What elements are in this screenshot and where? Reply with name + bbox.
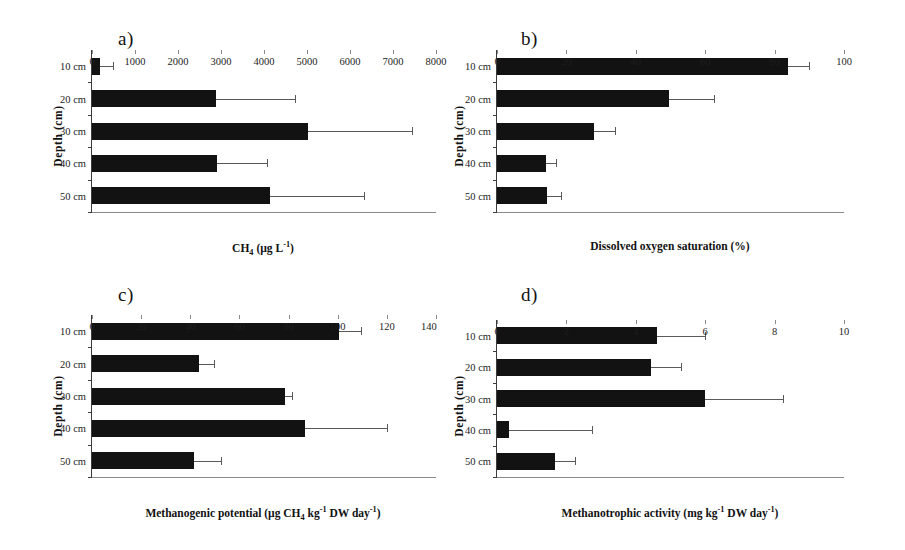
panel-a-y-tick (88, 180, 92, 181)
panel-c-bar (92, 388, 285, 405)
panel-c-y-tick-label: 50 cm (60, 455, 86, 466)
panel-c-error-bar-cap (221, 457, 222, 465)
panel-b-error-bar-line (788, 66, 809, 67)
panel-a-plot-area: 10 cm20 cm30 cm40 cm50 cm010002000300040… (91, 50, 436, 213)
panel-c-plot-area: 10 cm20 cm30 cm40 cm50 cm020406080100120… (91, 315, 436, 478)
panel-c-label: c) (118, 284, 134, 306)
panel-a-y-tick-label: 20 cm (60, 93, 86, 104)
panel-a-error-bar-line (216, 99, 295, 100)
panel-d-error-bar-line (705, 399, 783, 400)
panel-b-error-bar-cap (556, 159, 557, 167)
panel-c-x-tick (141, 315, 142, 319)
panel-a-error-bar-line (308, 131, 412, 132)
panel-c-error-bar-cap (361, 327, 362, 335)
panel-d: d) Depth (cm) 10 cm20 cm30 cm40 cm50 cm0… (452, 272, 905, 550)
panel-b-plot-area: 10 cm20 cm30 cm40 cm50 cm020406080100 (496, 50, 844, 213)
panel-b-error-bar-cap (561, 192, 562, 200)
panel-b-bar (497, 90, 669, 107)
panel-d-x-tick-label: 8 (772, 326, 777, 337)
panel-d-x-tick (497, 320, 498, 324)
panel-d-error-bar-line (509, 430, 592, 431)
panel-c-x-tick-label: 100 (330, 321, 346, 332)
panel-c-y-tick (88, 412, 92, 413)
panel-d-error-bar-cap (575, 457, 576, 465)
panel-d-bar (497, 421, 509, 438)
panel-a-error-bar-cap (295, 95, 296, 103)
panel-a-x-tick (436, 50, 437, 54)
panel-b-bar (497, 155, 546, 172)
panel-b-x-tick (705, 50, 706, 54)
panel-b-bar (497, 187, 547, 204)
panel-b-y-axis-title: Depth (cm) (453, 76, 465, 196)
figure-four-panel-bar-charts: a) Depth (cm) 10 cm20 cm30 cm40 cm50 cm0… (0, 0, 905, 550)
panel-d-x-tick (636, 320, 637, 324)
panel-a-y-tick-label: 40 cm (60, 158, 86, 169)
panel-c-y-tick (88, 477, 92, 478)
panel-c-x-tick (338, 315, 339, 319)
panel-d-y-tick (493, 383, 497, 384)
panel-c-x-tick (190, 315, 191, 319)
panel-c-x-axis-title: Methanogenic potential (µg CH4 kg-1 DW d… (145, 505, 380, 522)
panel-a-x-tick-label: 7000 (383, 56, 404, 67)
panel-b-y-tick (493, 147, 497, 148)
panel-d-y-tick-label: 50 cm (465, 456, 491, 467)
panel-d-error-bar-cap (592, 426, 593, 434)
panel-d-x-tick-label: 2 (564, 326, 569, 337)
panel-c-bar (92, 420, 305, 437)
panel-a-x-tick (307, 50, 308, 54)
panel-d-x-tick (566, 320, 567, 324)
panel-a-x-tick-label: 3000 (211, 56, 232, 67)
panel-c-x-tick-label: 40 (185, 321, 196, 332)
panel-a-y-tick-label: 50 cm (60, 190, 86, 201)
panel-b-y-tick-label: 30 cm (465, 126, 491, 137)
panel-d-bar (497, 390, 705, 407)
panel-a-y-tick-label: 30 cm (60, 126, 86, 137)
panel-d-error-bar-cap (681, 363, 682, 371)
panel-d-x-tick-label: 6 (703, 326, 708, 337)
panel-a-x-tick-label: 4000 (254, 56, 275, 67)
panel-a-x-tick (393, 50, 394, 54)
panel-b-error-bar-cap (615, 127, 616, 135)
panel-b-y-tick (493, 115, 497, 116)
panel-d-x-tick-label: 10 (839, 326, 850, 337)
panel-d-y-tick (493, 446, 497, 447)
panel-a-x-axis-title: CH4 (µg L-1) (232, 240, 294, 257)
panel-d-error-bar-line (555, 461, 575, 462)
panel-c-x-tick-label: 80 (283, 321, 294, 332)
panel-c-x-tick-label: 0 (89, 321, 94, 332)
panel-c-x-tick-label: 60 (234, 321, 245, 332)
panel-c-y-tick-label: 30 cm (60, 391, 86, 402)
panel-d-label: d) (521, 284, 538, 306)
panel-c-y-tick-label: 20 cm (60, 358, 86, 369)
panel-b-x-tick-label: 0 (494, 56, 499, 67)
panel-a-y-tick (88, 82, 92, 83)
panel-b-x-tick (566, 50, 567, 54)
panel-d-y-tick-label: 40 cm (465, 424, 491, 435)
panel-d-error-bar-cap (783, 395, 784, 403)
panel-c-x-tick (92, 315, 93, 319)
panel-c-y-tick (88, 347, 92, 348)
panel-b-y-tick (493, 82, 497, 83)
panel-d-error-bar-line (651, 367, 680, 368)
panel-c-x-tick-label: 120 (379, 321, 395, 332)
panel-b-error-bar-cap (714, 95, 715, 103)
panel-b-y-tick-label: 50 cm (465, 190, 491, 201)
panel-c-error-bar-line (305, 428, 387, 429)
panel-d-plot-area: 10 cm20 cm30 cm40 cm50 cm0246810 (496, 320, 844, 478)
panel-b-bar (497, 123, 594, 140)
panel-a-y-tick (88, 147, 92, 148)
panel-b-x-tick-label: 100 (836, 56, 852, 67)
panel-b-label: b) (521, 28, 538, 50)
panel-c-y-tick (88, 380, 92, 381)
panel-b-x-tick-label: 20 (561, 56, 572, 67)
panel-b-bar (497, 58, 788, 75)
panel-a-bar (92, 90, 216, 107)
panel-d-y-tick (493, 351, 497, 352)
panel-b-x-tick (775, 50, 776, 54)
panel-c-error-bar-cap (214, 360, 215, 368)
panel-a-error-bar-line (270, 196, 363, 197)
panel-c-x-tick (387, 315, 388, 319)
panel-c-error-bar-line (194, 461, 221, 462)
panel-a-y-tick (88, 115, 92, 116)
panel-d-y-tick-label: 20 cm (465, 362, 491, 373)
